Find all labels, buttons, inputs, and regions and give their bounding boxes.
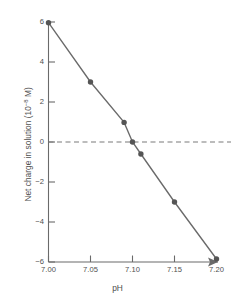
data-point <box>46 20 51 25</box>
y-axis-title-exponent: −8 <box>23 99 29 106</box>
y-axis-title-suffix: M) <box>23 87 33 99</box>
y-axis-title: Net charge in solution (10−8 M) <box>23 44 34 244</box>
x-tick-label: 7.10 <box>116 266 150 274</box>
x-axis-title: pH <box>0 283 235 293</box>
data-point <box>121 120 126 125</box>
data-point <box>138 151 143 156</box>
y-tick-label: 6 <box>22 18 44 26</box>
data-point <box>172 199 177 204</box>
x-tick-label: 7.20 <box>200 266 234 274</box>
data-point <box>130 139 135 144</box>
y-axis-title-prefix: Net charge in solution (10 <box>23 106 33 201</box>
data-point <box>88 79 93 84</box>
data-point <box>214 256 219 261</box>
x-tick-label: 7.00 <box>32 266 66 274</box>
x-tick-label: 7.15 <box>158 266 192 274</box>
chart-figure: 6 4 2 0 −2 −4 −6 7.00 7.05 7.10 7.15 7.2… <box>0 0 235 303</box>
x-tick-label: 7.05 <box>74 266 108 274</box>
